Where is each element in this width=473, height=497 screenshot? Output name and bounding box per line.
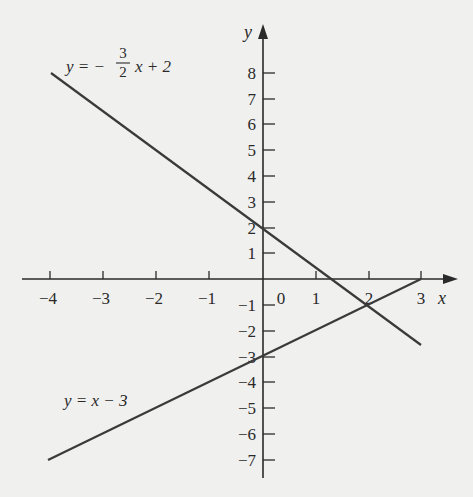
x-tick-label: 1 bbox=[312, 289, 321, 308]
equation-label-line2: y = x − 3 bbox=[62, 391, 128, 410]
y-tick-label: −6 bbox=[238, 425, 256, 444]
y-tick-labels: 8 7 6 5 4 3 2 1 −1 −2 −3 −4 −5 −6 −7 bbox=[238, 64, 257, 470]
y-tick-label: 5 bbox=[248, 141, 257, 160]
equation-label-line1: y = − 3 2 x + 2 bbox=[64, 45, 172, 80]
coordinate-graph: −4 −3 −2 −1 0 1 2 3 8 7 6 5 4 3 2 1 −1 −… bbox=[0, 0, 473, 497]
y-tick-label: −7 bbox=[238, 451, 257, 470]
y-ticks bbox=[263, 73, 275, 460]
y-tick-label: 3 bbox=[248, 193, 257, 212]
x-axis-label: x bbox=[437, 288, 446, 308]
fraction-numerator: 3 bbox=[119, 45, 127, 61]
x-ticks bbox=[50, 271, 421, 279]
equation-suffix: x + 2 bbox=[134, 57, 172, 76]
y-tick-label: −1 bbox=[238, 296, 256, 315]
y-tick-label: −2 bbox=[238, 322, 256, 341]
y-tick-label: 4 bbox=[248, 167, 257, 186]
y-axis-arrow-icon bbox=[258, 24, 268, 39]
x-axis bbox=[22, 274, 458, 284]
y-tick-label: 8 bbox=[248, 64, 257, 83]
y-tick-label: −5 bbox=[238, 399, 256, 418]
y-tick-label: 6 bbox=[248, 115, 257, 134]
y-axis bbox=[258, 24, 268, 478]
x-tick-label-origin: 0 bbox=[277, 289, 286, 308]
fraction-denominator: 2 bbox=[119, 64, 127, 80]
y-tick-label: −4 bbox=[238, 373, 257, 392]
x-tick-label: −2 bbox=[145, 289, 163, 308]
y-tick-label: 1 bbox=[248, 244, 257, 263]
y-axis-label: y bbox=[242, 22, 252, 42]
x-tick-label: −4 bbox=[39, 289, 58, 308]
x-axis-arrow-icon bbox=[443, 274, 458, 284]
x-tick-label: −1 bbox=[198, 289, 216, 308]
x-tick-label: 3 bbox=[417, 289, 426, 308]
equation-prefix: y = − bbox=[64, 57, 105, 76]
x-tick-label: −3 bbox=[92, 289, 110, 308]
y-tick-label: 7 bbox=[248, 90, 257, 109]
